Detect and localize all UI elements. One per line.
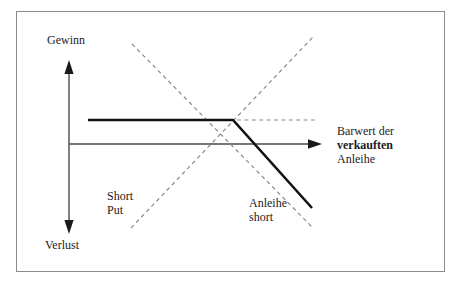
x-axis-label-line3: Anleihe (337, 152, 394, 166)
y-axis (64, 60, 73, 234)
x-axis-label: Barwert der verkauften Anleihe (337, 124, 394, 166)
y-axis-top-label: Gewinn (47, 33, 85, 47)
x-axis-arrow-right-icon (308, 139, 322, 149)
anleihe-short-annotation: Anleihe short (249, 196, 287, 224)
short-put-annotation-line2: Put (107, 203, 133, 217)
x-axis-label-line1: Barwert der (337, 124, 394, 138)
short-put-annotation: Short Put (107, 189, 133, 217)
anleihe-short-annotation-line2: short (249, 210, 287, 224)
x-axis-label-line2: verkauften (337, 138, 394, 152)
y-axis-bottom-label: Verlust (45, 238, 79, 252)
short-put-annotation-line1: Short (107, 189, 133, 203)
y-axis-arrow-down-icon (64, 220, 73, 234)
y-axis-arrow-up-icon (64, 60, 73, 74)
x-axis (69, 139, 322, 149)
payoff-diagram-figure: Gewinn Verlust Barwert der verkauften An… (0, 0, 463, 285)
anleihe-short-annotation-line1: Anleihe (249, 196, 287, 210)
